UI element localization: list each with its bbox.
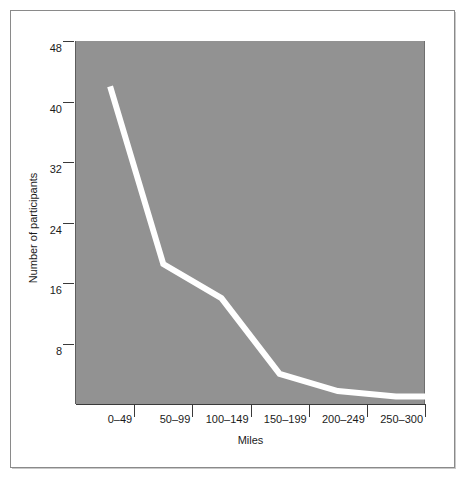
y-axis-line (75, 41, 76, 404)
x-axis-title: Miles (76, 434, 425, 446)
y-tick-label: 8 (56, 345, 62, 357)
y-tick-mark (63, 102, 74, 103)
y-tick-mark (63, 283, 74, 284)
line-chart: 48403224168 0–4950–99100–149150–199200–2… (0, 0, 467, 479)
y-tick-label: 24 (50, 224, 62, 236)
x-tick-label: 250–300 (380, 413, 423, 425)
x-tick-label: 50–99 (160, 413, 191, 425)
data-line-layer (76, 41, 425, 404)
y-tick-label: 16 (50, 284, 62, 296)
x-tick-mark (251, 404, 252, 417)
y-tick-mark (63, 162, 74, 163)
y-tick-label: 32 (50, 163, 62, 175)
x-tick-label: 0–49 (108, 413, 132, 425)
y-tick-mark (63, 344, 74, 345)
x-tick-mark (309, 404, 310, 417)
x-tick-mark (134, 404, 135, 417)
y-tick-label: 48 (50, 42, 62, 54)
x-tick-label: 100–149 (206, 413, 249, 425)
x-tick-label: 150–199 (264, 413, 307, 425)
x-tick-mark (192, 404, 193, 417)
y-tick-label: 40 (50, 103, 62, 115)
x-tick-mark (367, 404, 368, 417)
y-axis-title: Number of participants (27, 133, 39, 323)
y-tick-mark (63, 41, 74, 42)
data-series-line (110, 86, 425, 396)
figure: 48403224168 0–4950–99100–149150–199200–2… (0, 0, 467, 479)
y-tick-mark (63, 223, 74, 224)
x-tick-label: 200–249 (322, 413, 365, 425)
x-tick-mark (425, 404, 426, 417)
